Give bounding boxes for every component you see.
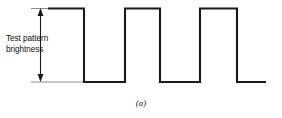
figure-caption: (a) [0,98,282,108]
brightness-annotation-label: Test pattern brightness [6,34,68,55]
annotation-line-1: Test pattern [6,34,68,45]
arrowhead-up-icon [38,8,44,16]
arrowhead-down-icon [38,74,44,82]
annotation-line-2: brightness [6,45,68,56]
test-pattern-waveform [48,9,266,83]
figure-panel: Test pattern brightness (a) [0,0,282,118]
